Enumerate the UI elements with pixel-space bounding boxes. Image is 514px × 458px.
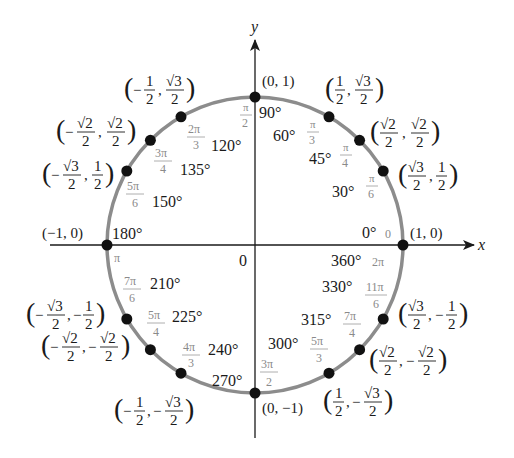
svg-text:4: 4 [349,326,355,340]
svg-text:): ) [96,297,105,328]
svg-text:,: , [428,307,432,323]
deg-label-60: 60° [273,127,295,144]
point-315 [354,344,365,355]
svg-text:2: 2 [438,177,446,193]
rad-label-5pi-3: 5π3 [310,334,328,365]
point-30 [378,166,389,177]
coord-label-135: ( − √22 , √22 ) [56,114,136,149]
coord-label-330: ( √32 , − 12 ) [398,297,468,332]
rad-label-3pi-4: 3π4 [154,146,172,176]
svg-text:√2: √2 [379,344,395,360]
svg-text:,: , [402,125,406,141]
svg-text:√3: √3 [63,158,79,174]
rad-label-pi-4: π4 [340,141,352,170]
svg-text:(: ( [26,297,35,328]
rad-label-7pi-6: 7π6 [123,274,141,305]
svg-text:2: 2 [94,176,102,192]
deg-label-240: 240° [208,341,238,358]
point-270 [250,388,261,399]
deg-label-90: 90° [259,104,281,121]
svg-text:2: 2 [360,91,368,107]
svg-text:(: ( [114,393,123,424]
svg-text:4: 4 [153,325,159,339]
point-300 [324,368,335,379]
rad-label-5pi-6: 5π6 [126,179,144,210]
svg-text:2: 2 [423,362,431,378]
rad-label-5pi-4: 5π4 [147,308,165,339]
svg-text:2: 2 [85,316,93,332]
svg-text:3π: 3π [155,146,167,160]
svg-text:√3: √3 [408,298,424,314]
svg-text:,: , [347,82,351,98]
svg-text:√2: √2 [62,330,78,346]
svg-text:4: 4 [160,162,166,176]
deg-label-210: 210° [150,275,180,292]
svg-text:√2: √2 [411,116,427,132]
svg-text:): ) [449,158,458,189]
svg-text:1: 1 [136,394,144,410]
svg-text:): ) [121,329,130,360]
svg-text:5π: 5π [148,308,160,322]
rad-label-7pi-4: 7π4 [343,309,361,340]
deg-label-360: 360° [331,252,361,269]
svg-text:2: 2 [384,362,392,378]
point-60 [324,111,335,122]
coord-label-270: (0, −1) [262,400,303,417]
svg-text:−: − [50,339,58,355]
deg-label-300: 300° [268,335,298,352]
point-150 [121,166,132,177]
svg-text:2: 2 [105,348,113,364]
deg-label-45: 45° [309,150,331,167]
svg-text:2: 2 [242,116,248,130]
svg-text:7π: 7π [124,274,136,288]
svg-text:6: 6 [129,291,135,305]
deg-label-270: 270° [212,372,242,389]
deg-label-120: 120° [211,137,241,154]
point-240 [176,368,187,379]
coord-label-150: ( − √32 , 12 ) [42,157,114,192]
svg-text:1: 1 [146,73,154,89]
svg-text:,: , [399,353,403,369]
svg-text:3: 3 [316,351,322,365]
point-45 [354,135,365,146]
svg-text:(: ( [124,72,133,103]
svg-text:1: 1 [438,159,446,175]
svg-text:6: 6 [132,196,138,210]
svg-text:√2: √2 [100,330,116,346]
svg-text:√2: √2 [77,115,93,131]
svg-text:(: ( [325,72,334,103]
svg-text:5π: 5π [127,179,139,193]
svg-text:): ) [185,393,194,424]
svg-text:2: 2 [413,316,421,332]
svg-text:2: 2 [68,176,76,192]
svg-text:−: − [133,82,141,98]
deg-label-30: 30° [332,183,354,200]
svg-text:π: π [310,118,316,130]
svg-text:√2: √2 [418,344,434,360]
svg-text:,: , [346,394,350,410]
coord-label-300: ( 12 , − √32 ) [323,384,393,419]
svg-text:−: − [65,124,73,140]
coord-label-60: ( 12 , √32 ) [325,72,384,107]
svg-text:): ) [384,384,393,415]
svg-text:(: ( [42,157,51,188]
coord-label-315: ( √22 , − √22 ) [369,343,447,378]
svg-text:(: ( [398,158,407,189]
svg-text:): ) [438,343,447,374]
svg-text:4: 4 [342,156,348,170]
svg-text:,: , [84,167,88,183]
point-135 [145,135,156,146]
svg-text:2: 2 [336,91,344,107]
svg-text:2: 2 [413,177,421,193]
svg-text:2π: 2π [188,122,200,136]
svg-text:2: 2 [67,348,75,364]
coord-label-45: ( √22 , √22 ) [370,115,440,150]
svg-text:6: 6 [373,297,379,311]
svg-text:2: 2 [266,375,272,389]
svg-text:1: 1 [94,158,102,174]
svg-text:(: ( [323,384,332,415]
svg-text:(: ( [398,297,407,328]
svg-text:6: 6 [368,187,374,201]
coord-label-30: ( √32 , 12 ) [398,158,458,193]
svg-text:(: ( [41,329,50,360]
